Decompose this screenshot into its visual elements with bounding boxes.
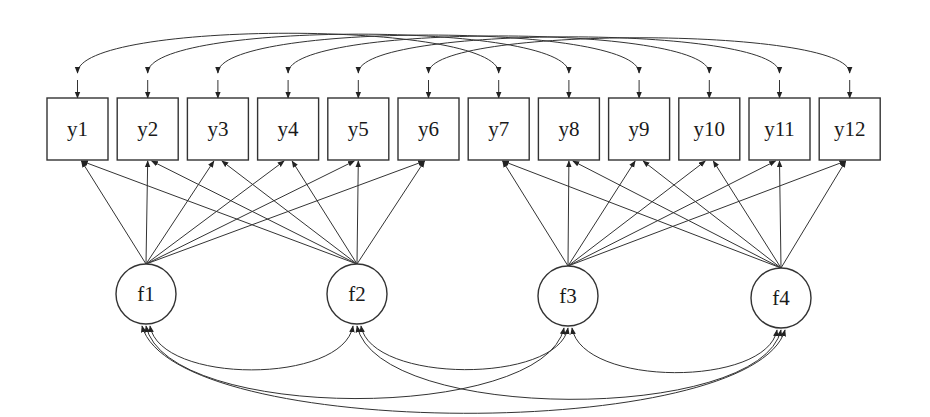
observed-variable-y10: y10: [679, 98, 740, 160]
loading-arrow: [568, 161, 776, 266]
latent-factor-f3: f3: [538, 266, 598, 326]
loading-arrow: [357, 161, 425, 264]
observed-label: y6: [418, 117, 439, 141]
loading-arrow: [780, 161, 782, 268]
observed-label: y7: [488, 117, 509, 141]
latent-label: f2: [348, 282, 366, 306]
loading-arrow: [146, 161, 148, 264]
observed-label: y8: [558, 117, 579, 141]
observed-label: y11: [764, 117, 795, 141]
loading-arrow: [643, 161, 781, 268]
observed-label: y10: [694, 117, 726, 141]
latent-factor-f4: f4: [751, 268, 811, 328]
latent-factor-f1: f1: [116, 264, 176, 324]
residual-covariance-arc: [429, 38, 850, 73]
path-diagram: y1y2y3y4y5y6y7y8y9y10y11y12 f1f2f3f4: [0, 0, 930, 417]
loading-arrow: [222, 161, 357, 264]
residual-covariance-arc: [288, 36, 709, 73]
factor-covariance-arc: [361, 326, 568, 370]
observed-label: y9: [629, 117, 650, 141]
observed-variable-y2: y2: [117, 98, 178, 160]
observed-variable-y11: y11: [749, 98, 810, 160]
loading-arrow: [503, 161, 781, 268]
latent-label: f1: [137, 282, 155, 306]
observed-variable-y12: y12: [819, 98, 880, 160]
factor-covariance-arc: [146, 326, 564, 399]
observed-label: y4: [278, 117, 300, 141]
factor-covariance-arc: [572, 328, 777, 373]
loading-arrow: [146, 161, 284, 264]
loading-arrow: [568, 161, 569, 266]
residual-covariance-arcs: [78, 33, 850, 98]
loading-arrow: [357, 161, 358, 264]
loading-arrow: [568, 161, 846, 266]
observed-variable-y4: y4: [258, 98, 319, 160]
observed-label: y3: [207, 117, 228, 141]
observed-label: y12: [834, 117, 866, 141]
residual-covariance-arc: [148, 34, 569, 73]
observed-variable-y8: y8: [538, 98, 599, 160]
observed-variable-y3: y3: [187, 98, 248, 160]
observed-variable-y1: y1: [47, 98, 108, 160]
factor-loading-arrows: [82, 161, 846, 268]
latent-label: f3: [559, 284, 577, 308]
loading-arrow: [82, 161, 147, 264]
loading-arrow: [146, 161, 354, 264]
loading-arrow: [713, 161, 781, 268]
loading-arrow: [152, 161, 357, 264]
residual-covariance-arc: [358, 37, 779, 73]
residual-covariance-arc: [218, 35, 639, 73]
loading-arrow: [146, 161, 214, 264]
latent-factors: f1f2f3f4: [116, 264, 811, 328]
loading-arrow: [781, 161, 846, 268]
observed-label: y1: [67, 117, 88, 141]
observed-variable-y7: y7: [468, 98, 529, 160]
observed-variable-y9: y9: [609, 98, 670, 160]
observed-variable-y5: y5: [328, 98, 389, 160]
observed-variables: y1y2y3y4y5y6y7y8y9y10y11y12: [47, 98, 880, 160]
factor-covariance-arcs: [142, 326, 785, 413]
observed-label: y5: [348, 117, 369, 141]
loading-arrow: [568, 161, 705, 266]
observed-variable-y6: y6: [398, 98, 459, 160]
residual-covariance-arc: [78, 33, 499, 73]
factor-covariance-arc: [150, 326, 353, 370]
latent-factor-f2: f2: [327, 264, 387, 324]
latent-label: f4: [772, 286, 790, 310]
observed-label: y2: [137, 117, 158, 141]
loading-arrow: [568, 161, 635, 266]
loading-arrow: [82, 161, 358, 264]
loading-arrow: [503, 161, 568, 266]
factor-covariance-arc: [357, 326, 781, 399]
loading-arrow: [292, 161, 357, 264]
loading-arrow: [146, 161, 425, 264]
